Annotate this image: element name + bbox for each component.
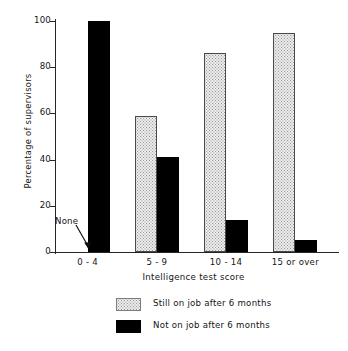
legend-label: Not on job after 6 months (153, 320, 270, 330)
x-axis-tick-label: 15 or over (253, 257, 337, 267)
x-axis-line (54, 252, 339, 253)
y-axis-tick-mark (50, 252, 55, 253)
bar (88, 21, 110, 252)
bar (226, 220, 248, 252)
bar (135, 116, 157, 252)
bar (204, 53, 226, 252)
y-axis-tick-label: 20 (40, 200, 51, 210)
x-axis-title: Intelligence test score (55, 272, 332, 282)
legend-item-not-on-job: Not on job after 6 months (116, 318, 348, 340)
bar-chart: Percentage of supervisors 020406080100 0… (0, 0, 348, 351)
bar (157, 157, 179, 252)
black-swatch-icon (116, 320, 141, 333)
y-axis-tick-label: 40 (40, 154, 51, 164)
legend-label: Still on job after 6 months (153, 298, 271, 308)
y-axis-tick-label: 80 (40, 61, 51, 71)
y-axis-tick-label: 100 (34, 15, 51, 25)
legend: Still on job after 6 months Not on job a… (116, 296, 348, 340)
none-annotation-arrow-icon (74, 224, 96, 250)
stippled-swatch-icon (116, 298, 141, 311)
y-axis-title: Percentage of supervisors (23, 31, 33, 231)
plot-area (55, 21, 332, 252)
y-axis-tick-label: 0 (45, 246, 51, 256)
bar (295, 240, 317, 252)
y-axis-tick-label: 60 (40, 107, 51, 117)
legend-item-still-on-job: Still on job after 6 months (116, 296, 348, 318)
bar (273, 33, 295, 252)
